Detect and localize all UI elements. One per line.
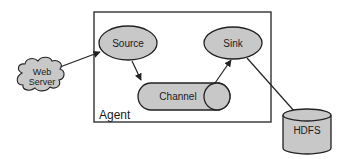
web-server-node: Web Server [17,57,64,91]
channel-node: Channel [138,83,230,110]
hdfs-label: HDFS [293,125,321,136]
flume-agent-diagram: Agent Web Server Source Sink Channel HDF… [0,0,348,159]
hdfs-node: HDFS [283,109,331,154]
agent-label: Agent [99,108,131,122]
web-server-label-line2: Server [29,77,56,87]
sink-label: Sink [223,38,243,49]
channel-label: Channel [159,91,196,102]
edge-source-to-channel [132,61,141,80]
source-label: Source [112,38,144,49]
web-server-label-line1: Web [33,67,51,77]
source-node: Source [99,26,157,60]
sink-node: Sink [204,27,262,59]
edge-channel-to-sink [215,60,231,83]
